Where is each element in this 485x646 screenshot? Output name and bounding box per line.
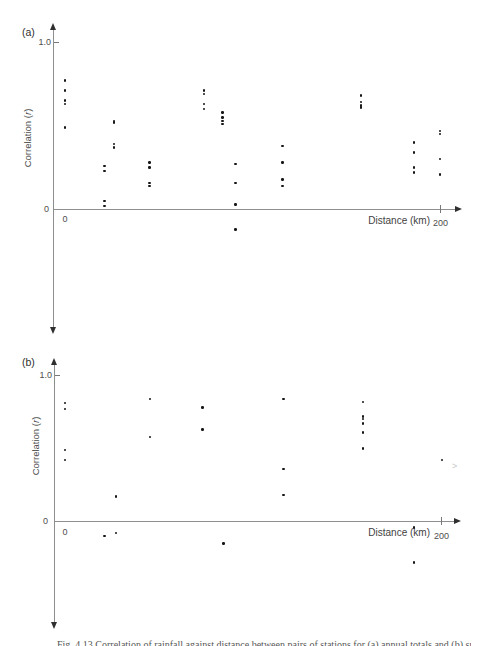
x-axis-title: Distance (km)	[320, 528, 430, 538]
data-point	[413, 151, 415, 153]
y-tick-label-0: 0	[27, 517, 48, 526]
data-point	[221, 120, 223, 122]
data-point	[103, 205, 105, 207]
data-point	[203, 89, 205, 91]
data-point	[221, 111, 223, 113]
data-point	[234, 182, 236, 184]
data-point	[222, 542, 224, 544]
data-point	[360, 106, 362, 108]
data-point	[201, 428, 203, 430]
x-axis-title: Distance (km)	[320, 216, 430, 226]
panel-b-label: (b)	[22, 357, 35, 368]
data-point	[362, 401, 364, 403]
data-point	[64, 126, 66, 128]
data-point	[360, 101, 362, 103]
data-point	[64, 103, 66, 105]
data-point	[281, 161, 283, 163]
y-axis-title-suffix: )	[22, 109, 33, 112]
data-point	[64, 408, 66, 410]
y-axis-title-italic-r: r	[30, 420, 41, 423]
x-tick-label-200: 200	[428, 532, 455, 541]
data-point	[360, 94, 362, 96]
y-axis-title: Correlation (r)	[31, 417, 41, 476]
data-point	[64, 89, 66, 91]
x-axis	[53, 209, 455, 210]
data-point	[115, 532, 117, 534]
data-point	[64, 402, 66, 404]
y-axis-bottom-arrow-icon	[50, 327, 56, 334]
data-point	[439, 133, 441, 135]
x-axis-arrow-icon	[454, 518, 461, 524]
data-point	[281, 185, 283, 187]
y-axis	[53, 27, 54, 327]
data-point	[441, 459, 443, 461]
y-tick-label-1.0: 1.0	[28, 38, 51, 47]
data-point	[113, 121, 115, 123]
data-point	[413, 141, 415, 143]
data-point	[113, 143, 115, 145]
data-point	[103, 200, 105, 202]
data-point	[439, 130, 441, 132]
data-point	[362, 431, 364, 433]
y-axis-title-prefix: Correlation (	[22, 115, 33, 167]
data-point	[281, 145, 283, 147]
data-point	[203, 108, 205, 110]
figure-canvas: (a) 1.0 0 0 200 Distance (km) Correlatio…	[0, 0, 485, 646]
y-axis-top-arrow-icon	[51, 358, 57, 365]
data-point	[439, 173, 441, 175]
data-point	[115, 495, 117, 497]
data-point	[148, 182, 150, 184]
x-axis-arrow-icon	[455, 206, 462, 212]
y-tick-label-1.0: 1.0	[29, 371, 52, 380]
y-tick-1.0	[55, 375, 60, 376]
y-axis-title-prefix: Correlation (	[30, 423, 41, 475]
x-tick-200	[440, 205, 441, 213]
data-point	[148, 161, 150, 163]
data-point	[149, 398, 151, 400]
y-axis-title-suffix: )	[30, 417, 41, 420]
data-point	[203, 103, 205, 105]
data-point	[282, 494, 284, 496]
data-point	[148, 185, 150, 187]
data-point	[64, 449, 66, 451]
data-point	[413, 526, 415, 528]
data-point	[362, 447, 364, 449]
y-axis	[54, 362, 55, 622]
data-point	[113, 146, 115, 148]
y-axis-title-italic-r: r	[22, 112, 33, 115]
data-point	[203, 93, 205, 95]
x-tick-label-0: 0	[59, 528, 71, 537]
x-axis	[54, 521, 455, 522]
data-point	[201, 406, 203, 408]
y-tick-label-0: 0	[28, 205, 49, 214]
data-point	[64, 79, 66, 81]
panel-a-label: (a)	[22, 27, 35, 38]
data-point	[103, 170, 105, 172]
y-axis-title: Correlation (r)	[23, 109, 33, 168]
print-artifact-mark: >	[452, 462, 457, 471]
data-point	[149, 436, 151, 438]
data-point	[221, 123, 223, 125]
data-point	[148, 166, 150, 168]
y-tick-1.0	[54, 42, 59, 43]
data-point	[439, 158, 441, 160]
data-point	[362, 418, 364, 420]
data-point	[103, 535, 105, 537]
x-tick-200	[441, 517, 442, 525]
data-point	[221, 116, 223, 118]
data-point	[413, 166, 415, 168]
data-point	[413, 561, 415, 563]
y-axis-bottom-arrow-icon	[51, 622, 57, 629]
figure-caption: Fig. 4.13 Correlation of rainfall agains…	[57, 639, 471, 646]
x-tick-label-200: 200	[427, 219, 454, 228]
data-point	[234, 163, 236, 165]
data-point	[64, 99, 66, 101]
x-tick-label-0: 0	[59, 215, 71, 224]
y-axis-top-arrow-icon	[50, 23, 56, 30]
data-point	[362, 422, 364, 424]
data-point	[234, 203, 236, 205]
data-point	[103, 165, 105, 167]
data-point	[234, 228, 236, 230]
data-point	[281, 178, 283, 180]
data-point	[282, 468, 284, 470]
